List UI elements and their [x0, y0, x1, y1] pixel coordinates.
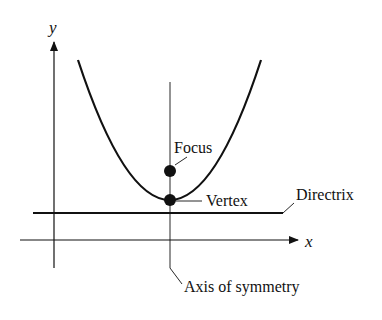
focus-label: Focus [174, 139, 212, 156]
axis-of-symmetry-label: Axis of symmetry [184, 278, 300, 296]
vertex-label: Vertex [206, 192, 248, 209]
directrix-leader [283, 203, 294, 213]
vertex-point [164, 194, 176, 206]
parabola-diagram: y x Axis of symmetry Directrix Focus Ver… [0, 0, 382, 320]
directrix-label: Directrix [296, 186, 354, 203]
x-axis-label: x [304, 232, 313, 251]
y-axis-label: y [47, 18, 57, 37]
parabola-curve [78, 60, 261, 200]
focus-leader [175, 157, 187, 165]
axis-of-symmetry-leader [170, 268, 182, 284]
focus-point [164, 165, 176, 177]
